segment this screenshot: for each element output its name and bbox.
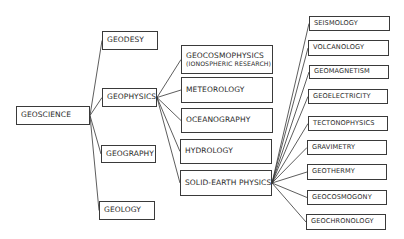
node-geoelectricity: GEOELECTRICITY: [308, 89, 388, 104]
connector-solid-earth-physics-volcanology: [272, 48, 308, 183]
node-label: GEODESY: [107, 36, 157, 45]
geoscience-tree-diagram: GEOSCIENCE GEODESY GEOPHYSICS GEOGRAPHY …: [0, 0, 404, 239]
node-label: GEOTHERMY: [312, 168, 386, 176]
node-geomagnetism: GEOMAGNETISM: [309, 65, 389, 79]
connector-geophysics-geocosmophysics: [157, 60, 181, 98]
node-label: GEOELECTRICITY: [313, 93, 387, 101]
node-geophysics: GEOPHYSICS: [102, 88, 157, 107]
node-label: GEOLOGY: [104, 206, 154, 215]
node-volcanology: VOLCANOLOGY: [308, 40, 389, 56]
node-label: GEOGRAPHY: [106, 150, 155, 159]
node-meteorology: METEOROLOGY: [181, 77, 273, 103]
connector-geoscience-geology: [90, 116, 99, 211]
node-sublabel: (IONOSPHERIC RESEARCH): [186, 60, 272, 67]
node-geothermy: GEOTHERMY: [307, 164, 387, 180]
connector-solid-earth-physics-geocosmogony: [272, 183, 307, 198]
connector-solid-earth-physics-seismology: [272, 24, 309, 184]
node-label: TECTONOPHYSICS: [313, 120, 387, 128]
connector-solid-earth-physics-geoelectricity: [272, 97, 308, 184]
connector-geoscience-geodesy: [90, 41, 102, 116]
node-label: VOLCANOLOGY: [313, 44, 388, 52]
node-geodesy: GEODESY: [102, 31, 158, 50]
node-solid-earth-physics: SOLID-EARTH PHYSICS: [180, 170, 272, 196]
connector-solid-earth-physics-geomagnetism: [272, 72, 309, 183]
node-label: SEISMOLOGY: [314, 20, 389, 28]
connector-solid-earth-physics-tectonophysics: [272, 124, 308, 184]
node-geoscience: GEOSCIENCE: [16, 106, 90, 125]
node-geocosmogony: GEOCOSMOGONY: [307, 190, 387, 205]
connector-solid-earth-physics-geochronology: [272, 183, 306, 222]
node-label: GEOCOSMOPHYSICS: [186, 52, 272, 61]
node-oceanography: OCEANOGRAPHY: [181, 108, 273, 133]
node-label: GEOMAGNETISM: [314, 68, 388, 76]
node-gravimetry: GRAVIMETRY: [307, 140, 387, 155]
node-geocosmophysics: GEOCOSMOPHYSICS (IONOSPHERIC RESEARCH): [181, 45, 273, 74]
node-label: GEOPHYSICS: [107, 93, 156, 102]
node-label: GRAVIMETRY: [312, 144, 386, 152]
connector-geophysics-oceanography: [157, 98, 181, 121]
node-label: SOLID-EARTH PHYSICS: [185, 179, 271, 188]
connector-geophysics-solid-earth-physics: [157, 98, 180, 184]
node-label: GEOCHRONOLOGY: [311, 218, 385, 226]
node-label: METEOROLOGY: [186, 86, 272, 95]
node-label: OCEANOGRAPHY: [186, 116, 272, 125]
connector-geophysics-hydrology: [157, 98, 180, 152]
node-geography: GEOGRAPHY: [101, 145, 156, 163]
node-geology: GEOLOGY: [99, 201, 155, 220]
node-tectonophysics: TECTONOPHYSICS: [308, 116, 388, 131]
node-label: GEOSCIENCE: [21, 111, 89, 120]
node-label: GEOCOSMOGONY: [312, 194, 386, 202]
node-label: HYDROLOGY: [185, 147, 271, 156]
node-seismology: SEISMOLOGY: [309, 16, 390, 31]
node-geochronology: GEOCHRONOLOGY: [306, 214, 386, 230]
node-hydrology: HYDROLOGY: [180, 139, 272, 164]
